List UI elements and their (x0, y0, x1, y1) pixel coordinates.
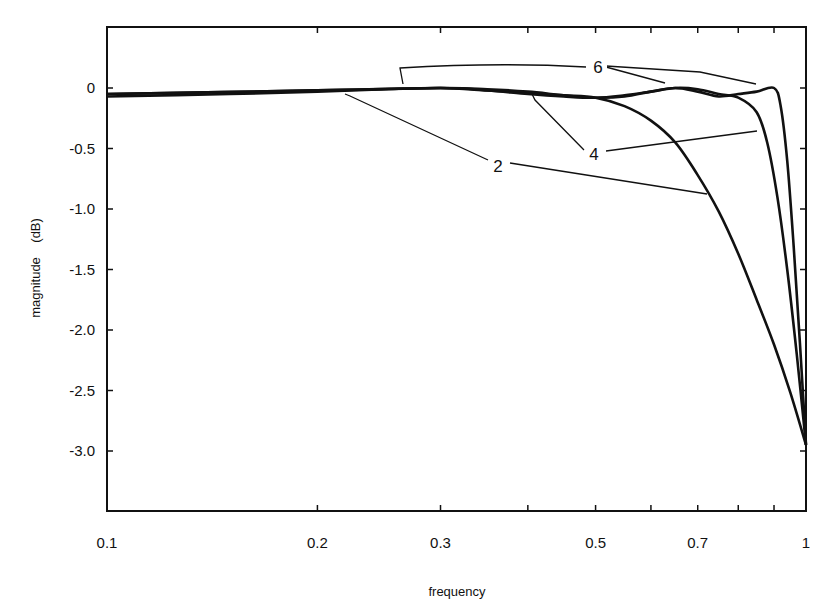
frequency-response-chart: 0.10.20.30.50.71 0-0.5-1.0-1.5-2.0-2.5-3… (0, 0, 825, 613)
leader-line (606, 66, 756, 84)
x-tick-label: 0.2 (307, 534, 328, 551)
y-tick-label: -1.0 (69, 200, 95, 217)
curve-label-6: 6 (593, 58, 602, 77)
x-axis-title: frequency (428, 584, 486, 599)
label-leader-lines (345, 65, 757, 194)
plot-frame (107, 27, 806, 511)
x-tick-label: 0.5 (585, 534, 606, 551)
curve-labels: 642 (489, 55, 607, 176)
y-axis-title: magnitude (dB) (28, 218, 43, 318)
y-tick-label: -1.5 (69, 261, 95, 278)
y-tick-label: -0.5 (69, 140, 95, 157)
curve-label-2: 2 (493, 157, 502, 176)
plot-border (107, 27, 806, 511)
leader-line (606, 131, 757, 151)
curve-order-6 (107, 87, 806, 445)
curve-label-4: 4 (589, 145, 598, 164)
y-tick-label: -3.0 (69, 442, 95, 459)
y-tick-label: -2.5 (69, 382, 95, 399)
leader-line (400, 65, 586, 84)
x-axis-ticks: 0.10.20.30.50.71 (97, 27, 811, 551)
x-tick-label: 0.7 (687, 534, 708, 551)
x-tick-label: 0.1 (97, 534, 118, 551)
curve-order-4 (107, 88, 806, 445)
leader-line (345, 94, 488, 160)
leader-line (532, 94, 584, 150)
curve-order-2 (107, 88, 806, 445)
leader-line (510, 163, 707, 194)
y-tick-label: 0 (87, 79, 95, 96)
y-tick-label: -2.0 (69, 321, 95, 338)
x-tick-label: 1 (802, 534, 810, 551)
response-curves (107, 87, 806, 445)
x-tick-label: 0.3 (430, 534, 451, 551)
